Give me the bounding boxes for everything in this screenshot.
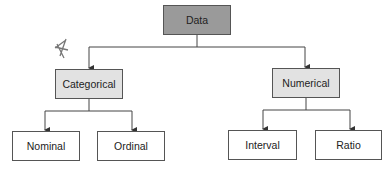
node-label: Data bbox=[186, 14, 208, 26]
node-label: Ordinal bbox=[114, 140, 148, 152]
node-nominal: Nominal bbox=[12, 131, 80, 161]
node-label: Categorical bbox=[62, 78, 115, 90]
node-label: Interval bbox=[245, 139, 279, 151]
node-label: Nominal bbox=[27, 140, 66, 152]
node-label: Numerical bbox=[282, 77, 329, 89]
node-label: Ratio bbox=[336, 139, 361, 151]
node-interval: Interval bbox=[228, 130, 297, 160]
node-ratio: Ratio bbox=[315, 130, 382, 160]
hand-drawn-star-mark-icon bbox=[52, 38, 70, 60]
node-categorical: Categorical bbox=[55, 69, 123, 99]
node-data: Data bbox=[163, 5, 231, 35]
node-ordinal: Ordinal bbox=[97, 131, 165, 161]
node-numerical: Numerical bbox=[272, 68, 340, 98]
